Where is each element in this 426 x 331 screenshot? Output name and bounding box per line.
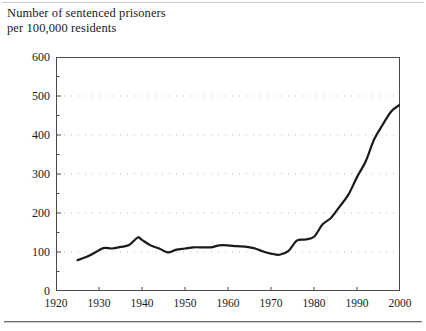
chart-title: Number of sentenced prisoners per 100,00… bbox=[7, 6, 267, 36]
bottom-rule bbox=[4, 321, 422, 322]
y-tick-label: 100 bbox=[4, 246, 50, 258]
figure: Number of sentenced prisoners per 100,00… bbox=[0, 0, 426, 331]
y-tick-label: 0 bbox=[4, 285, 50, 297]
plot-frame bbox=[57, 58, 400, 291]
x-tick-label: 1920 bbox=[34, 297, 78, 309]
data-series-line bbox=[78, 105, 401, 261]
y-tick-label: 400 bbox=[4, 129, 50, 141]
chart-title-line-1: Number of sentenced prisoners bbox=[7, 6, 267, 21]
y-tick-label: 500 bbox=[4, 90, 50, 102]
x-tick-label: 1950 bbox=[163, 297, 207, 309]
x-tick-label: 1980 bbox=[292, 297, 336, 309]
x-tick-label: 2000 bbox=[378, 297, 422, 309]
y-tick-label: 600 bbox=[4, 51, 50, 63]
x-tick-label: 1940 bbox=[120, 297, 164, 309]
y-tick-label: 200 bbox=[4, 207, 50, 219]
x-tick-label: 1970 bbox=[249, 297, 293, 309]
chart-title-line-2: per 100,000 residents bbox=[7, 21, 267, 36]
x-tick-label: 1960 bbox=[206, 297, 250, 309]
y-tick-label: 300 bbox=[4, 168, 50, 180]
x-tick-label: 1990 bbox=[335, 297, 379, 309]
plot-area bbox=[56, 57, 400, 291]
top-rule bbox=[2, 2, 424, 3]
x-tick-label: 1930 bbox=[77, 297, 121, 309]
chart-svg bbox=[56, 57, 400, 291]
grid-lines bbox=[57, 96, 399, 252]
